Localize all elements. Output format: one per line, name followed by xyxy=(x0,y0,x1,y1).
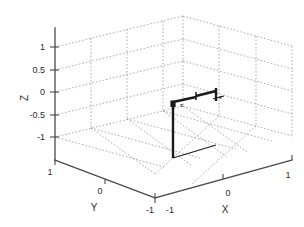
y-tick-label-1: 0 xyxy=(97,186,102,196)
z-tick-label-3: -0.5 xyxy=(29,110,45,120)
plot-canvas: 1 0.5 0 -0.5 -1 1 0 -1 -1 0 1 Z Y X xyxy=(0,0,304,227)
frame-label-base: X xyxy=(180,103,183,108)
z-tick-label-0: 1 xyxy=(40,42,45,52)
z-tick-label-2: 0 xyxy=(40,87,45,97)
z-tick-label-1: 0.5 xyxy=(32,65,45,75)
frame-label-wrist: X xyxy=(219,95,222,100)
z-tick-label-4: -1 xyxy=(37,132,45,142)
x-tick-label-1: 0 xyxy=(225,188,230,198)
x-axis-label: X xyxy=(222,204,229,215)
y-axis-label: Y xyxy=(91,202,98,213)
y-tick-label-2: -1 xyxy=(146,205,154,215)
x-tick-label-0: -1 xyxy=(166,205,174,215)
y-tick-label-0: 1 xyxy=(47,167,52,177)
z-axis-label: Z xyxy=(19,95,30,101)
plot-background xyxy=(0,0,304,227)
figure-3d-plot: 1 0.5 0 -0.5 -1 1 0 -1 -1 0 1 Z Y X xyxy=(0,0,304,227)
x-tick-label-2: 1 xyxy=(285,170,290,180)
